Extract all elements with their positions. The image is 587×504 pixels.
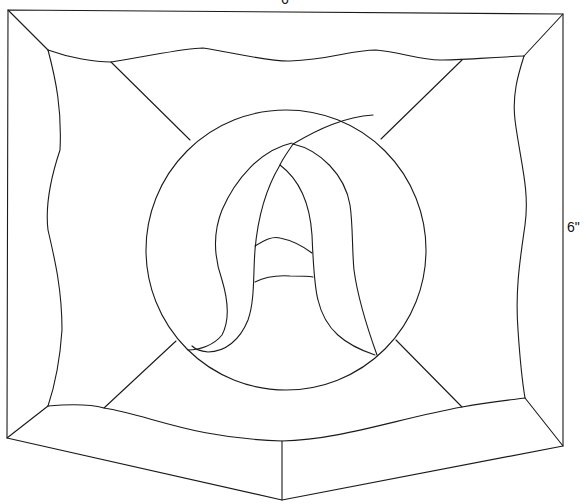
- miter-top-left: [8, 10, 48, 50]
- letter-a-cross-stroke-left: [280, 144, 293, 165]
- letter-a-arc-top: [293, 115, 373, 144]
- inner-left-wave: [47, 50, 62, 406]
- width-dimension-label: 6": [281, 0, 294, 7]
- inner-top-wave: [48, 48, 524, 62]
- spoke-top-right: [381, 60, 462, 139]
- inner-bottom-wave: [48, 398, 525, 441]
- spoke-bottom-left: [104, 341, 176, 408]
- letter-a-left-inner: [192, 165, 280, 352]
- height-dimension-label: 6": [567, 219, 580, 235]
- pattern-diagram: 6" 6": [0, 0, 587, 504]
- letter-a-right-inner: [280, 165, 375, 355]
- letter-a-left-outer: [188, 143, 292, 350]
- letter-a-right-outer: [293, 144, 377, 355]
- miter-bottom-left: [7, 406, 48, 438]
- center-circle: [146, 110, 426, 390]
- miter-bottom-right: [525, 398, 563, 446]
- spoke-top-left: [111, 62, 190, 140]
- letter-a-crossbar-bottom: [255, 276, 313, 282]
- spoke-bottom-right: [396, 340, 462, 407]
- pattern-svg: [0, 0, 587, 504]
- letter-a-crossbar-top: [255, 237, 312, 253]
- outer-border: [7, 10, 563, 500]
- miter-top-right: [524, 14, 563, 56]
- inner-right-wave: [514, 56, 526, 398]
